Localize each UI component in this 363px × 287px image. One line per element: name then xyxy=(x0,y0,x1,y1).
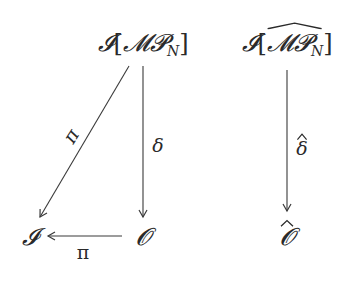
hat-icon xyxy=(296,133,307,141)
node-top-left-subscript: N xyxy=(167,43,179,59)
node-top-right-hatted-group: 𝓜𝓟N xyxy=(267,31,323,58)
node-bottom-left: 𝓘 xyxy=(22,225,38,249)
node-top-right-subscript: N xyxy=(311,43,323,59)
node-top-left-core: 𝓜𝓟 xyxy=(123,29,167,57)
label-pi-horizontal: π xyxy=(77,243,90,262)
node-top-right-core: 𝓜𝓟 xyxy=(267,29,311,57)
node-bottom-right: 𝓞 xyxy=(280,225,295,249)
commutative-diagram: 𝓘[𝓜𝓟N] 𝓘[𝓜𝓟N] 𝓘 𝓞 𝓞 π δ π δ xyxy=(0,0,363,287)
node-top-right-close-bracket: ] xyxy=(323,29,332,57)
node-top-left-open-bracket: [ xyxy=(114,29,123,57)
node-top-right-prefix: 𝓘 xyxy=(242,29,258,57)
label-delta: δ xyxy=(152,136,163,155)
label-delta-hat: δ xyxy=(296,139,307,158)
arrow-pi-diagonal xyxy=(40,66,129,217)
node-top-left-prefix: 𝓘 xyxy=(98,29,114,57)
node-top-left-close-bracket: ] xyxy=(179,29,188,57)
node-bottom-right-text: 𝓞 xyxy=(280,223,295,251)
node-top-right: 𝓘[𝓜𝓟N] xyxy=(242,31,333,58)
node-top-left: 𝓘[𝓜𝓟N] xyxy=(98,31,189,58)
hat-icon xyxy=(280,219,295,227)
node-bottom-mid: 𝓞 xyxy=(136,225,151,249)
wide-hat-icon xyxy=(267,22,323,30)
label-delta-hat-group: δ xyxy=(296,139,307,158)
node-top-right-open-bracket: [ xyxy=(258,29,267,57)
node-bottom-right-hatted: 𝓞 xyxy=(280,225,295,249)
